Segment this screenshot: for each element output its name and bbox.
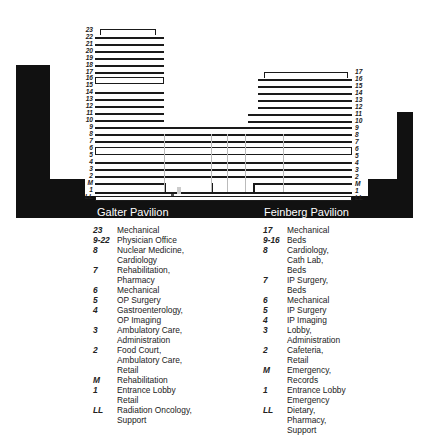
entrance-figure [171, 194, 174, 196]
legend-floor: 4 [263, 315, 287, 325]
legend-use: Rehabilitation [117, 375, 168, 385]
legend-use: Food Court, Ambulatory Care, Retail [117, 345, 182, 375]
right-retaining-wall [397, 112, 413, 218]
left-ground-step [50, 179, 85, 196]
legend-row: 2Food Court, Ambulatory Care, Retail [93, 345, 192, 375]
galter-legend: 23Mechanical9-22Physician Office8Nuclear… [93, 225, 192, 425]
legend-row: 3Ambulatory Care, Administration [93, 325, 192, 345]
legend-row: 5OP Surgery [93, 295, 192, 305]
floor-label-left: 3 [81, 165, 93, 172]
galter-penthouse [100, 29, 156, 35]
legend-row: 6Mechanical [263, 295, 346, 305]
legend-row: MEmergency, Records [263, 365, 346, 385]
legend-floor: 3 [263, 325, 287, 345]
galter-floor-line [95, 37, 164, 39]
legend-row: 6Mechanical [93, 285, 192, 295]
legend-floor: M [93, 375, 117, 385]
floor-label-left: 20 [81, 47, 93, 54]
floor-label-right: 8 [355, 131, 367, 138]
legend-use: Radiation Oncology, Support [117, 405, 192, 425]
floor-label-right: 3 [355, 166, 367, 173]
legend-floor: 9-22 [93, 235, 117, 245]
legend-use: Ambulatory Care, Administration [117, 325, 182, 345]
structural-gridline [211, 134, 212, 192]
floor-label-right: 11 [355, 110, 367, 117]
galter-floor-line [95, 120, 164, 122]
legend-row: 23Mechanical [93, 225, 192, 235]
feinberg-floor-line [258, 86, 352, 88]
galter-mechanical-floor [95, 77, 164, 84]
floor-label-left: 16 [81, 74, 93, 81]
floor-line [95, 169, 352, 171]
floor-label-right: 9 [355, 124, 367, 131]
floor-label-right: 1 [355, 187, 367, 194]
legend-floor: 6 [263, 295, 287, 305]
floor-label-left: M [81, 179, 93, 186]
floor-label-left: 5 [81, 151, 93, 158]
legend-use: Emergency, Records [287, 365, 331, 385]
legend-use: IP Surgery [287, 305, 326, 315]
feinberg-pavilion-label: Feinberg Pavilion [264, 206, 349, 218]
galter-floor-line [95, 99, 164, 101]
structural-gridline [283, 134, 284, 192]
floor-label-right: 2 [355, 173, 367, 180]
legend-floor: 5 [263, 305, 287, 315]
floor-label-left: 19 [81, 54, 93, 61]
legend-floor: M [263, 365, 287, 385]
entrance-figure [177, 187, 181, 194]
legend-floor: LL [263, 405, 287, 435]
floor-line-m-left [95, 183, 165, 185]
galter-floor-line [95, 58, 164, 60]
galter-floor-line [95, 92, 164, 94]
floor-label-right: 14 [355, 89, 367, 96]
atrium-wall [253, 183, 255, 193]
floor-label-left: 9 [81, 123, 93, 130]
galter-pavilion-label: Galter Pavilion [97, 206, 169, 218]
floor-label-left: 6 [81, 144, 93, 151]
floor-label-left: 7 [81, 137, 93, 144]
legend-row: 4IP Imaging [263, 315, 346, 325]
legend-row: LLDietary, Pharmacy, Support [263, 405, 346, 435]
feinberg-floor-line [248, 114, 352, 116]
legend-use: Cafeteria, Retail [287, 345, 323, 365]
legend-floor: 3 [93, 325, 117, 345]
galter-floor-line [95, 113, 164, 115]
floor-label-left: 12 [81, 102, 93, 109]
structural-gridline [227, 134, 228, 192]
feinberg-floor-line [248, 121, 352, 123]
floor-label-left: 4 [81, 158, 93, 165]
floor-label-right: 15 [355, 82, 367, 89]
legend-floor: 5 [93, 295, 117, 305]
legend-row: 1Entrance Lobby Emergency [263, 385, 346, 405]
floor-label-left: LL [81, 193, 93, 200]
legend-use: Entrance Lobby Retail [117, 385, 176, 405]
legend-use: Lobby, Administration [287, 325, 340, 345]
legend-row: 7IP Surgery, Beds [263, 275, 346, 295]
floor-label-right: 13 [355, 96, 367, 103]
feinberg-floor-line [258, 93, 352, 95]
legend-use: IP Imaging [287, 315, 327, 325]
legend-row: 8Nuclear Medicine, Cardiology [93, 245, 192, 265]
floor-label-left: 8 [81, 130, 93, 137]
structural-gridline [245, 134, 246, 192]
legend-floor: 7 [263, 275, 287, 295]
galter-floor-line [95, 72, 164, 74]
legend-floor: 8 [263, 245, 287, 275]
legend-row: 4Gastroenterology, OP Imaging [93, 305, 192, 325]
floor-label-right: 10 [355, 117, 367, 124]
floor-line-m-right [254, 183, 352, 185]
feinberg-floor-line [258, 107, 352, 109]
legend-row: 1Entrance Lobby Retail [93, 385, 192, 405]
floor-label-left: 21 [81, 40, 93, 47]
legend-row: 8Cardiology, Cath Lab, Beds [263, 245, 346, 275]
mechanical-floor-6 [95, 147, 352, 155]
legend-row: 9-16Beds [263, 235, 346, 245]
floor-label-left: 15 [81, 81, 93, 88]
legend-use: OP Surgery [117, 295, 161, 305]
legend-use: Nuclear Medicine, Cardiology [117, 245, 184, 265]
floor-label-right: M [355, 180, 367, 187]
floor-line [95, 176, 352, 178]
legend-floor: 1 [263, 385, 287, 405]
legend-use: Entrance Lobby Emergency [287, 385, 346, 405]
floor-label-left: 14 [81, 88, 93, 95]
